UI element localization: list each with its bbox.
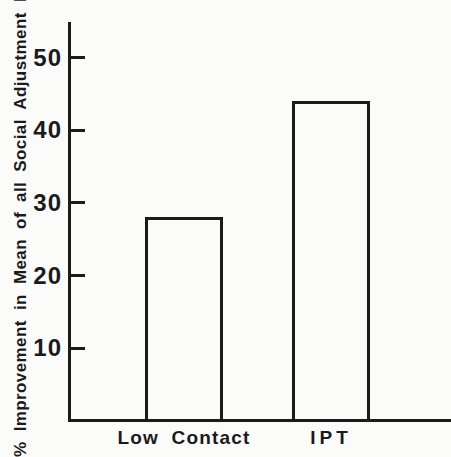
y-tick-label: 30 xyxy=(12,191,62,215)
y-tick xyxy=(71,201,85,204)
y-tick-label: 50 xyxy=(12,46,62,70)
bar-low-contact xyxy=(145,217,223,422)
x-category-label: IPT xyxy=(246,426,416,450)
bar-chart-figure: % Improvement in Mean of all Social Adju… xyxy=(0,0,451,457)
y-tick-label: 20 xyxy=(12,264,62,288)
y-tick xyxy=(71,274,85,277)
x-category-label: Low Contact xyxy=(99,426,269,450)
y-tick xyxy=(71,129,85,132)
y-tick xyxy=(71,56,85,59)
bar-ipt xyxy=(292,101,370,422)
x-axis-line xyxy=(68,419,451,422)
y-tick-label: 40 xyxy=(12,118,62,142)
y-axis-line xyxy=(68,22,71,422)
y-tick-label: 10 xyxy=(12,336,62,360)
y-tick xyxy=(71,347,85,350)
